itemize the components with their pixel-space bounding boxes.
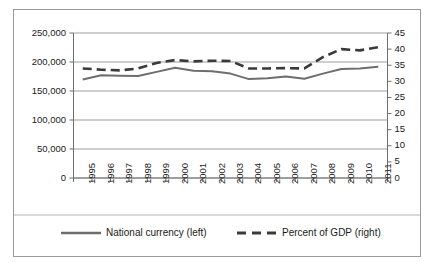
y-left-tick-label: 250,000 — [14, 28, 66, 38]
y-right-tick-label: 45 — [395, 28, 419, 38]
x-tick-label: 2010 — [364, 163, 374, 184]
y-right-tick-label: 0 — [395, 173, 419, 183]
y-right-tick-label: 30 — [395, 76, 419, 86]
x-tick-label: 2006 — [290, 163, 300, 184]
y-left-tick-label: 200,000 — [14, 57, 66, 67]
y-left-tick-label: 100,000 — [14, 115, 66, 125]
y-right-tick-label: 5 — [395, 156, 419, 166]
y-right-tick-label: 40 — [395, 44, 419, 54]
x-tick-label: 1998 — [143, 163, 153, 184]
legend-label-2: Percent of GDP (right) — [282, 227, 381, 238]
gridlines — [74, 33, 388, 178]
y-left-tick-label: 150,000 — [14, 86, 66, 96]
axis-lines — [74, 33, 388, 178]
x-axis-ticks — [74, 178, 388, 182]
y-right-tick-label: 25 — [395, 92, 419, 102]
y-left-tick-label: 50,000 — [14, 144, 66, 154]
y-right-tick-label: 35 — [395, 60, 419, 70]
series-line-2 — [83, 47, 379, 70]
y-left-tick-label: 0 — [14, 173, 66, 183]
y-right-tick-label: 15 — [395, 124, 419, 134]
x-tick-label: 2000 — [180, 163, 190, 184]
x-tick-label: 2007 — [309, 163, 319, 184]
x-tick-label: 1997 — [124, 163, 134, 184]
x-tick-label: 1996 — [106, 163, 116, 184]
y-right-tick-label: 10 — [395, 140, 419, 150]
x-tick-label: 2002 — [217, 163, 227, 184]
x-tick-label: 2001 — [198, 163, 208, 184]
x-tick-label: 1995 — [87, 163, 97, 184]
y-left-axis-ticks — [70, 33, 74, 178]
y-right-tick-label: 20 — [395, 108, 419, 118]
legend-label-1: National currency (left) — [106, 227, 207, 238]
x-tick-label: 1999 — [161, 163, 171, 184]
series-lines — [83, 47, 379, 79]
x-tick-label: 2011 — [383, 164, 393, 184]
x-tick-label: 2008 — [327, 163, 337, 184]
x-tick-label: 2005 — [272, 163, 282, 184]
y-right-axis-ticks — [388, 33, 392, 178]
x-tick-label: 2009 — [346, 163, 356, 184]
x-tick-label: 2003 — [235, 163, 245, 184]
x-tick-label: 2004 — [253, 163, 263, 184]
